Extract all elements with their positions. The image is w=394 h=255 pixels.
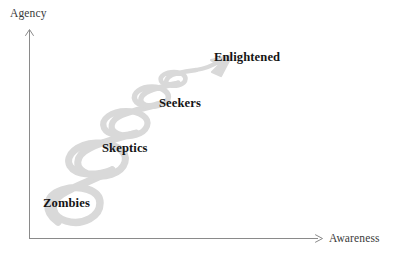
stage-label-zombies: Zombies [43,197,90,210]
stage-label-enlightened: Enlightened [214,51,280,64]
figure-canvas: Agency Awareness Zombies Skeptics Seeker… [0,0,394,255]
stage-label-seekers: Seekers [159,97,201,110]
stage-label-skeptics: Skeptics [102,142,148,155]
x-axis-title: Awareness [329,233,380,245]
axes-graphic [0,0,394,255]
y-axis-title: Agency [10,8,47,20]
